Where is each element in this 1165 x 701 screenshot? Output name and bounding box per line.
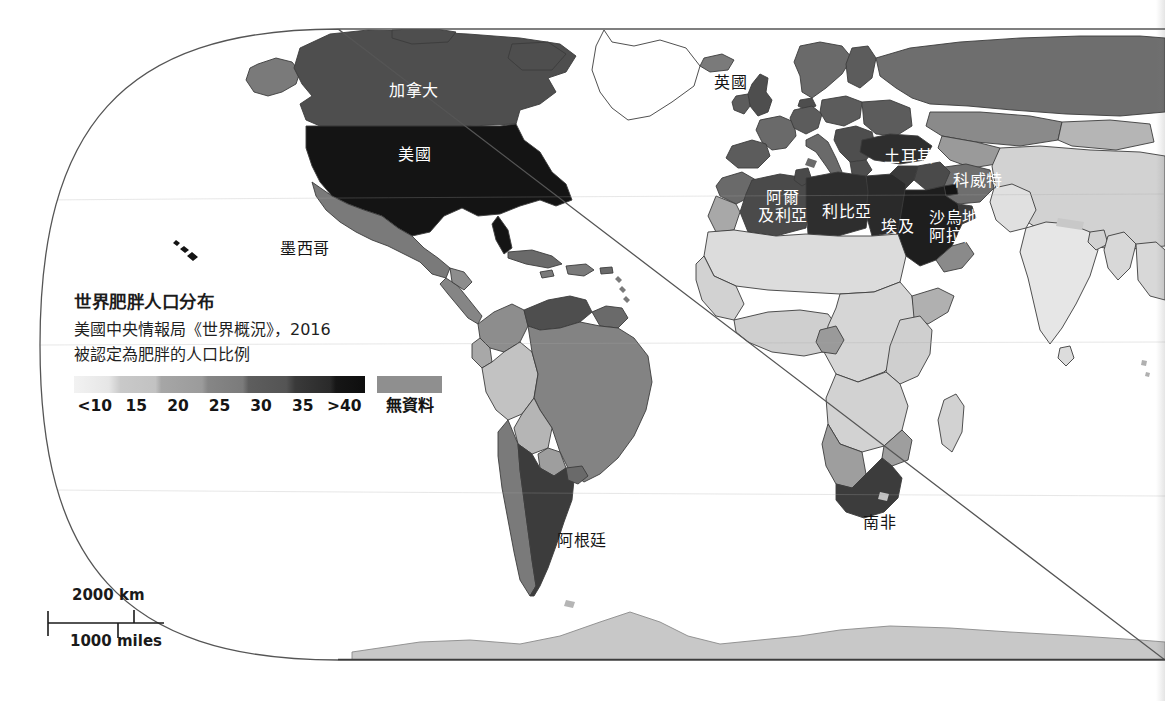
legend-tick-labels: <10 15 20 25 30 35 >40 [74, 395, 365, 417]
legend-description: 被認定為肥胖的人口比例 [74, 343, 444, 368]
legend-gradient-bar [74, 376, 365, 393]
legend-nodata-swatch [377, 376, 442, 393]
scale-miles-label: 1000 miles [70, 632, 162, 650]
legend-tick-0: <10 [74, 395, 116, 417]
legend-scale: <10 15 20 25 30 35 >40 無資料 [74, 376, 444, 420]
legend-title: 世界肥胖人口分布 [74, 292, 444, 314]
scale-km-label: 2000 km [72, 586, 145, 604]
island-jamaica [540, 270, 554, 278]
legend-tick-4: 30 [240, 395, 282, 417]
map-scale-bar: 2000 km 1000 miles [46, 586, 246, 658]
legend-tick-5: 35 [282, 395, 324, 417]
legend-source: 美國中央情報局《世界概況》，2016 [74, 318, 444, 343]
legend-tick-6: >40 [323, 395, 365, 417]
legend-nodata-label: 無資料 [377, 395, 443, 417]
island-puerto-rico [600, 267, 613, 274]
region-sahel [704, 230, 906, 294]
country-kuwait [944, 184, 958, 196]
scan-edge-shadow [1156, 0, 1165, 701]
map-legend: 世界肥胖人口分布 美國中央情報局《世界概況》，2016 被認定為肥胖的人口比例 [74, 292, 444, 420]
legend-tick-3: 25 [199, 395, 241, 417]
legend-tick-1: 15 [116, 395, 158, 417]
legend-tick-2: 20 [157, 395, 199, 417]
country-libya [806, 172, 870, 236]
